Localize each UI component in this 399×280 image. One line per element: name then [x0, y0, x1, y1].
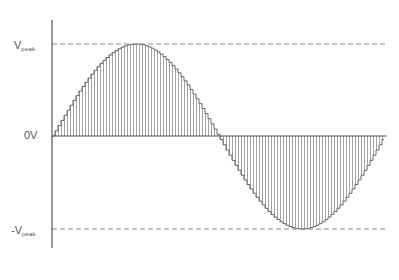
zero-volt-label-text: 0V [24, 129, 37, 141]
neg-vpeak-label-main: -V [11, 224, 22, 236]
vpeak-label-sub: peak [21, 46, 35, 52]
vpeak-label: Vpeak [14, 40, 35, 52]
sampled-sine-wave-diagram [0, 0, 399, 280]
zero-volt-label: 0V [24, 130, 37, 141]
neg-vpeak-label-sub: peak [22, 231, 36, 237]
neg-vpeak-label: -Vpeak [11, 225, 36, 237]
